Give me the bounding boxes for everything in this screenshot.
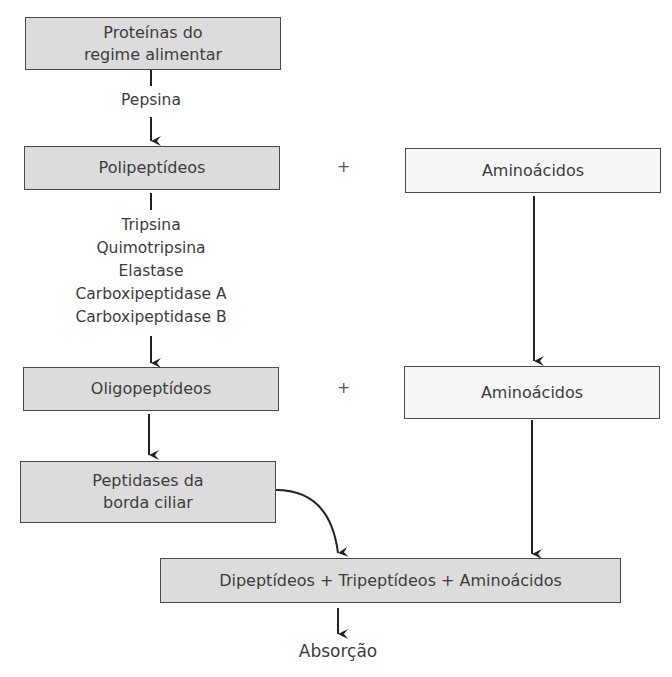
plus-sign-mid: + bbox=[337, 378, 350, 397]
outcome-absorption: Absorção bbox=[278, 640, 398, 663]
enzyme-trypsin: Tripsina bbox=[51, 214, 251, 237]
enzyme-carboxypeptidase-a: Carboxipeptidase A bbox=[41, 283, 261, 306]
enzyme-elastase: Elastase bbox=[51, 260, 251, 283]
enzyme-chymotrypsin: Quimotripsina bbox=[51, 237, 251, 260]
node-polypeptides: Polipeptídeos bbox=[24, 146, 280, 190]
enzyme-pepsin: Pepsina bbox=[101, 89, 201, 112]
node-di-tripeptides-amino-acids: Dipeptídeos + Tripeptídeos + Aminoácidos bbox=[160, 558, 621, 603]
enzyme-carboxypeptidase-b: Carboxipeptidase B bbox=[41, 306, 261, 329]
node-oligopeptides: Oligopeptídeos bbox=[23, 367, 279, 411]
node-amino-acids-top: Aminoácidos bbox=[405, 148, 661, 193]
node-brush-border-peptidases: Peptidases da borda ciliar bbox=[20, 461, 276, 523]
node-dietary-proteins: Proteínas do regime alimentar bbox=[25, 17, 281, 70]
arrow-brush-border-to-final bbox=[276, 490, 338, 553]
plus-sign-top: + bbox=[337, 157, 350, 176]
node-amino-acids-mid: Aminoácidos bbox=[404, 366, 660, 419]
